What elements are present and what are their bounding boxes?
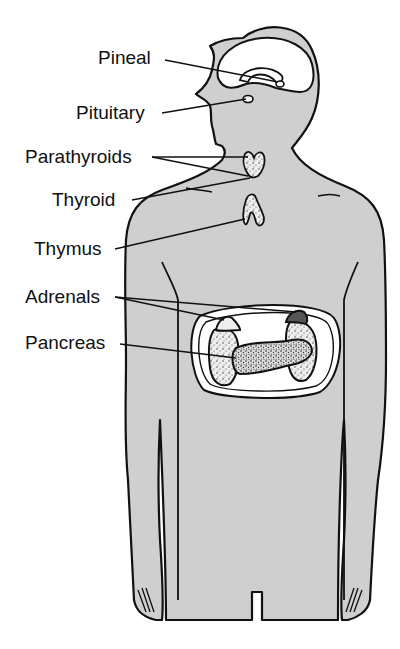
label-pineal: Pineal [98, 48, 151, 67]
endocrine-diagram [0, 0, 400, 649]
label-pancreas: Pancreas [25, 333, 105, 352]
label-thyroid: Thyroid [52, 190, 115, 209]
label-thymus: Thymus [34, 239, 102, 258]
label-parathyroids: Parathyroids [25, 147, 132, 166]
abdominal-cavity [191, 305, 340, 398]
label-pituitary: Pituitary [76, 103, 145, 122]
label-adrenals: Adrenals [25, 287, 100, 306]
